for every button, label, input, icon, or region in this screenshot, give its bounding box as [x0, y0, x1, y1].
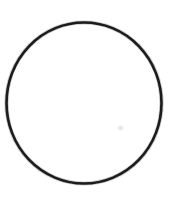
background-rect — [0, 0, 180, 202]
circle-figure — [0, 0, 180, 202]
image-canvas: Hand-drawn black circle outline on a pla… — [0, 0, 180, 202]
